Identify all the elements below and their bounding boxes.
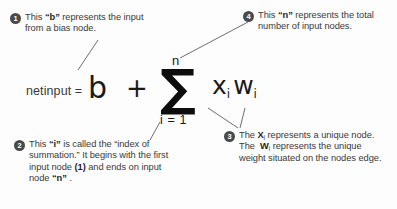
connector-line-4 (180, 22, 248, 58)
summand-x: x (212, 71, 227, 100)
annotation-4: 4 This “n” represents the total number o… (243, 10, 393, 33)
annotation-1-badge: 1 (10, 13, 21, 24)
summand-terms: xiwi (212, 73, 257, 98)
annotation-3: 3 The Xi represents a unique node. The W… (224, 130, 389, 164)
diagram-canvas: netinput = b + n ∑ i = 1 xiwi 1 This “b”… (0, 0, 397, 209)
annotation-2: 2 This “i” is called the “index of summa… (14, 139, 174, 185)
annotation-2-badge: 2 (14, 140, 25, 151)
annotation-4-badge: 4 (243, 11, 254, 22)
summand-x-subscript: i (227, 87, 230, 101)
annotation-1: 1 This “b” represents the input from a b… (10, 12, 162, 35)
summation-sigma-icon: ∑ (160, 63, 196, 113)
annotation-1-text: This “b” represents the input from a bia… (25, 12, 162, 35)
annotation-4-text: This “n” represents the total number of … (258, 10, 393, 33)
bias-term: b (88, 73, 107, 103)
summand-w-subscript: i (254, 87, 257, 101)
annotation-3-text: The Xi represents a unique node. The Wi … (239, 130, 389, 164)
annotation-2-text: This “i” is called the “index of summati… (29, 139, 174, 185)
sigma-lower-limit: i = 1 (160, 113, 187, 127)
netinput-formula: netinput = b + n ∑ i = 1 xiwi (26, 55, 276, 135)
formula-lhs: netinput = (26, 84, 82, 98)
plus-operator: + (126, 75, 148, 101)
annotation-3-badge: 3 (224, 131, 235, 142)
summand-w: w (233, 71, 253, 100)
